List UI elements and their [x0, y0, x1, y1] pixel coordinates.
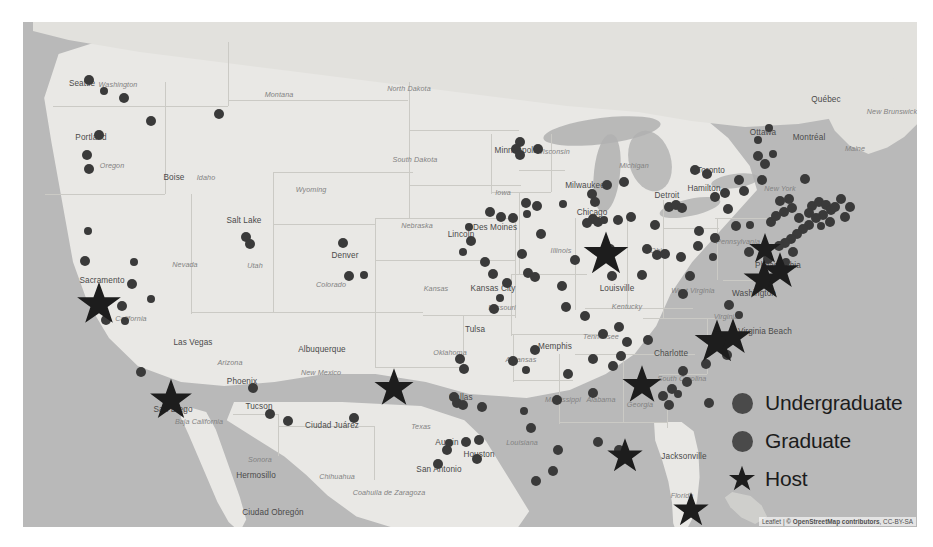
- student-marker-dot[interactable]: [760, 159, 770, 169]
- student-marker-dot[interactable]: [100, 87, 108, 95]
- student-marker-dot[interactable]: [787, 203, 797, 213]
- student-marker-dot[interactable]: [455, 354, 465, 364]
- student-marker-dot[interactable]: [794, 213, 804, 223]
- student-marker-dot[interactable]: [720, 188, 730, 198]
- student-marker-dot[interactable]: [84, 227, 92, 235]
- student-marker-dot[interactable]: [784, 194, 794, 204]
- student-marker-dot[interactable]: [660, 249, 670, 259]
- student-marker-dot[interactable]: [502, 278, 512, 288]
- student-marker-dot[interactable]: [472, 454, 482, 464]
- student-marker-dot[interactable]: [643, 335, 653, 345]
- student-marker-dot[interactable]: [536, 229, 546, 239]
- student-marker-dot[interactable]: [520, 407, 528, 415]
- student-marker-dot[interactable]: [678, 366, 688, 376]
- host-marker-star[interactable]: [621, 364, 663, 406]
- student-marker-dot[interactable]: [523, 210, 531, 218]
- student-marker-dot[interactable]: [533, 144, 543, 154]
- student-marker-dot[interactable]: [734, 175, 744, 185]
- host-marker-star[interactable]: [582, 230, 630, 278]
- student-marker-dot[interactable]: [739, 186, 749, 196]
- student-marker-dot[interactable]: [616, 351, 626, 361]
- student-marker-dot[interactable]: [769, 150, 777, 158]
- student-marker-dot[interactable]: [344, 271, 354, 281]
- student-marker-dot[interactable]: [84, 164, 94, 174]
- student-marker-dot[interactable]: [676, 252, 686, 262]
- student-marker-dot[interactable]: [130, 258, 138, 266]
- student-marker-dot[interactable]: [485, 207, 495, 217]
- student-marker-dot[interactable]: [477, 402, 487, 412]
- student-marker-dot[interactable]: [757, 175, 767, 185]
- student-marker-dot[interactable]: [685, 271, 695, 281]
- student-marker-dot[interactable]: [248, 383, 258, 393]
- host-marker-star[interactable]: [672, 491, 710, 527]
- student-marker-dot[interactable]: [622, 337, 632, 347]
- student-marker-dot[interactable]: [825, 217, 835, 227]
- attribution-leaflet[interactable]: Leaflet: [762, 518, 781, 525]
- student-marker-dot[interactable]: [466, 236, 476, 246]
- student-marker-dot[interactable]: [598, 329, 608, 339]
- student-marker-dot[interactable]: [136, 367, 146, 377]
- student-marker-dot[interactable]: [496, 294, 504, 302]
- student-marker-dot[interactable]: [552, 395, 562, 405]
- student-marker-dot[interactable]: [561, 302, 571, 312]
- host-marker-star[interactable]: [748, 232, 782, 266]
- student-marker-dot[interactable]: [804, 208, 814, 218]
- student-marker-dot[interactable]: [557, 281, 567, 291]
- attribution-osm[interactable]: © OpenStreetMap: [786, 518, 840, 525]
- student-marker-dot[interactable]: [517, 249, 527, 259]
- student-marker-dot[interactable]: [619, 177, 629, 187]
- student-marker-dot[interactable]: [94, 130, 104, 140]
- student-marker-dot[interactable]: [704, 398, 714, 408]
- student-marker-dot[interactable]: [664, 400, 674, 410]
- student-marker-dot[interactable]: [674, 390, 682, 398]
- student-marker-dot[interactable]: [80, 256, 90, 266]
- student-marker-dot[interactable]: [702, 169, 712, 179]
- student-marker-dot[interactable]: [474, 435, 484, 445]
- student-marker-dot[interactable]: [530, 345, 540, 355]
- student-marker-dot[interactable]: [147, 295, 155, 303]
- student-marker-dot[interactable]: [642, 244, 652, 254]
- student-marker-dot[interactable]: [522, 366, 530, 374]
- student-marker-dot[interactable]: [559, 200, 567, 208]
- student-marker-dot[interactable]: [650, 220, 660, 230]
- student-marker-dot[interactable]: [508, 213, 518, 223]
- student-marker-dot[interactable]: [84, 75, 94, 85]
- student-marker-dot[interactable]: [637, 270, 647, 280]
- student-marker-dot[interactable]: [724, 300, 734, 310]
- leaflet-map-canvas[interactable]: WashingtonOregonIdahoMontanaWyomingNevad…: [23, 22, 917, 527]
- student-marker-dot[interactable]: [531, 476, 541, 486]
- student-marker-dot[interactable]: [693, 241, 703, 251]
- student-marker-dot[interactable]: [580, 311, 590, 321]
- student-marker-dot[interactable]: [480, 257, 490, 267]
- student-marker-dot[interactable]: [710, 233, 720, 243]
- student-marker-dot[interactable]: [488, 269, 498, 279]
- student-marker-dot[interactable]: [508, 356, 518, 366]
- student-marker-dot[interactable]: [214, 109, 224, 119]
- host-marker-star[interactable]: [606, 437, 644, 475]
- student-marker-dot[interactable]: [602, 180, 612, 190]
- student-marker-dot[interactable]: [515, 150, 525, 160]
- map-attribution[interactable]: Leaflet | © OpenStreetMap contributors, …: [759, 517, 916, 526]
- student-marker-dot[interactable]: [526, 423, 536, 433]
- student-marker-dot[interactable]: [800, 174, 810, 184]
- student-marker-dot[interactable]: [582, 218, 592, 228]
- student-marker-dot[interactable]: [613, 215, 623, 225]
- student-marker-dot[interactable]: [614, 322, 624, 332]
- student-marker-dot[interactable]: [593, 437, 603, 447]
- student-marker-dot[interactable]: [723, 204, 733, 214]
- student-marker-dot[interactable]: [82, 150, 92, 160]
- student-marker-dot[interactable]: [836, 194, 846, 204]
- student-marker-dot[interactable]: [433, 459, 443, 469]
- student-marker-dot[interactable]: [678, 289, 688, 299]
- student-marker-dot[interactable]: [709, 253, 717, 261]
- student-marker-dot[interactable]: [489, 304, 499, 314]
- host-marker-star[interactable]: [149, 378, 194, 423]
- student-marker-dot[interactable]: [765, 124, 773, 132]
- student-marker-dot[interactable]: [553, 445, 563, 455]
- student-marker-dot[interactable]: [840, 212, 850, 222]
- host-marker-star[interactable]: [713, 317, 753, 357]
- student-marker-dot[interactable]: [626, 212, 636, 222]
- student-marker-dot[interactable]: [496, 212, 506, 222]
- student-marker-dot[interactable]: [283, 416, 293, 426]
- student-marker-dot[interactable]: [608, 361, 618, 371]
